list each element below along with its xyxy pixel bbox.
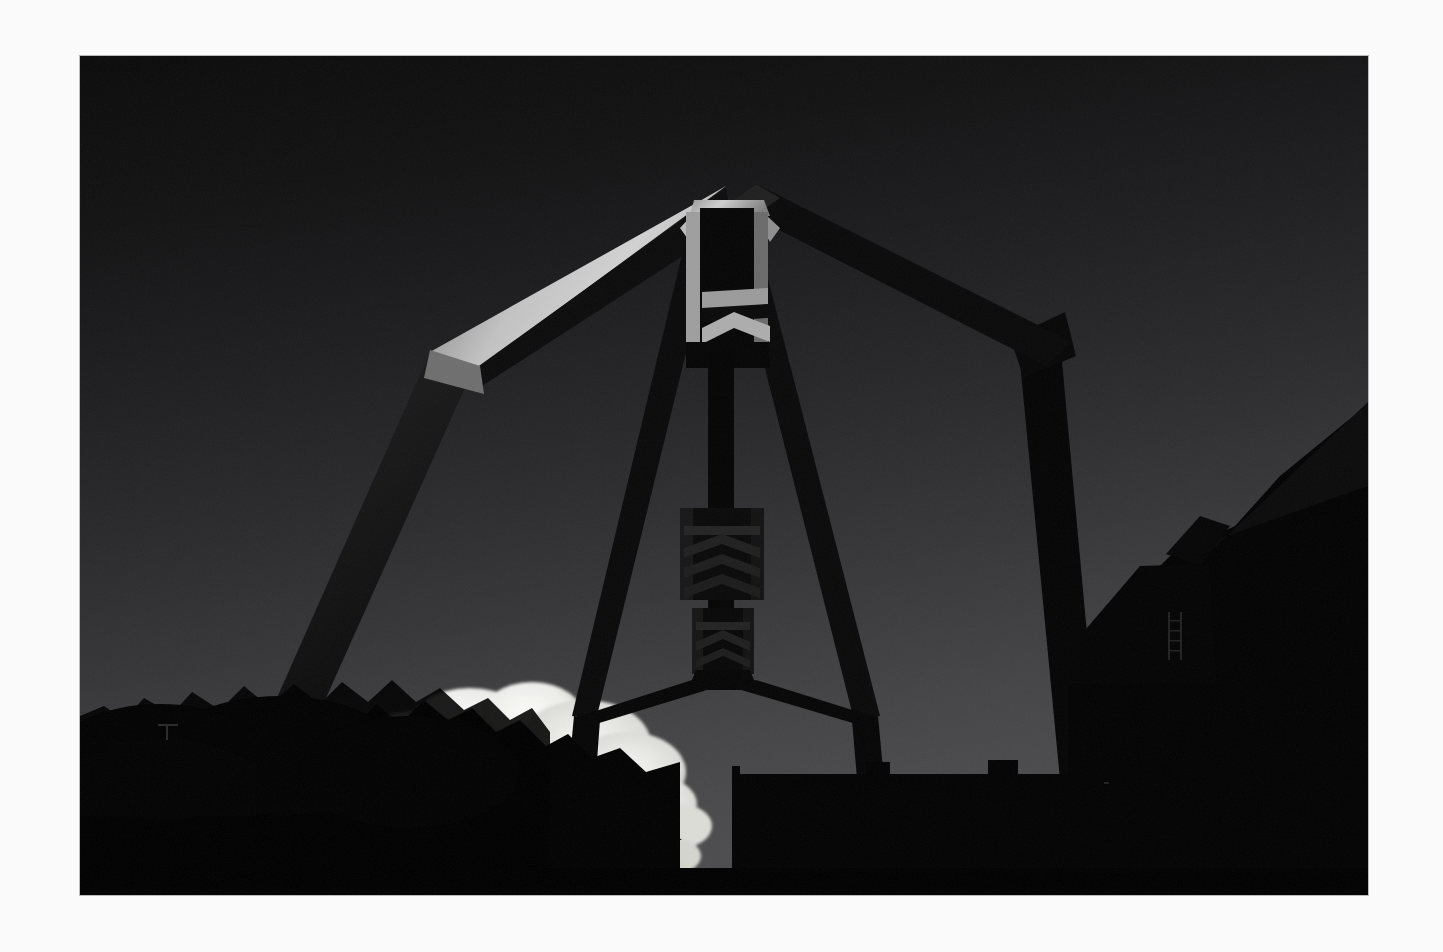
photograph: Backlit silhouette of a large industrial… bbox=[80, 56, 1368, 895]
photo-canvas bbox=[80, 56, 1368, 895]
film-grain-overlay bbox=[80, 56, 1368, 895]
page-root: Backlit silhouette of a large industrial… bbox=[0, 0, 1443, 952]
